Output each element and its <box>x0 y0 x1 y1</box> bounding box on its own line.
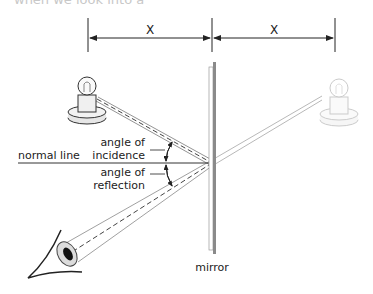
virtual-rays <box>212 96 322 166</box>
mirror <box>209 62 216 254</box>
dimension-label-left: X <box>146 23 154 37</box>
dimension-label-right: X <box>270 23 278 37</box>
angle-incidence-label-2: incidence <box>92 149 145 162</box>
dimension-markers: X X <box>88 18 335 52</box>
angle-incidence-label-1: angle of <box>100 136 146 149</box>
angle-reflection-label-2: reflection <box>93 179 145 192</box>
eye-icon <box>28 230 82 278</box>
normal-line-label: normal line <box>18 149 80 162</box>
angle-reflection-label-1: angle of <box>100 166 146 179</box>
mirror-label: mirror <box>195 261 229 274</box>
virtual-bulb-image-icon <box>320 79 358 126</box>
angle-arcs <box>150 142 172 186</box>
reflection-diagram: X X normal line angle of incidence angle… <box>0 0 373 294</box>
